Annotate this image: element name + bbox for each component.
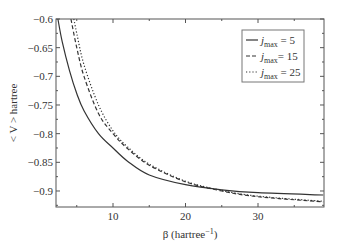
y-tick-label: −0.75 — [28, 99, 54, 111]
y-tick-label: −0.85 — [28, 156, 54, 168]
x-tick-label: 20 — [180, 210, 192, 222]
y-tick-label: −0.6 — [33, 13, 53, 25]
y-tick-label: −0.65 — [28, 42, 54, 54]
y-tick-label: −0.7 — [33, 70, 53, 82]
x-tick-label: 30 — [253, 210, 265, 222]
y-tick-label: −0.9 — [33, 185, 53, 197]
legend: jmax = 5 jmax= 15 jmax = 25 — [242, 30, 304, 82]
x-axis-label: β (hartree−1) — [163, 227, 218, 241]
x-tick-label: 10 — [108, 210, 120, 222]
y-tick-label: −0.8 — [33, 128, 53, 140]
y-axis-label: < V > hartree — [7, 84, 19, 143]
line-chart: −0.6−0.65−0.7−0.75−0.8−0.85−0.9 102030 j… — [0, 0, 341, 249]
